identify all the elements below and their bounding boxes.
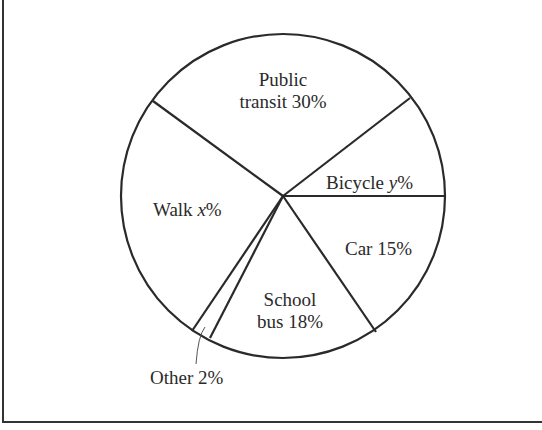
label-school-bus-line2: bus 18% — [257, 311, 323, 332]
label-school-bus-line1: School — [264, 289, 317, 310]
label-other: Other 2% — [150, 367, 224, 388]
slice-bicycle: Bicycle y% — [326, 172, 413, 193]
slice-other: Other 2% — [150, 367, 224, 388]
label-public-transit-line2: transit 30% — [239, 91, 326, 112]
slice-walk: Walk x% — [153, 199, 222, 220]
slice-school-bus: School bus 18% — [257, 289, 323, 332]
label-walk: Walk x% — [153, 199, 222, 220]
label-car: Car 15% — [345, 238, 412, 259]
label-public-transit-line1: Public — [259, 69, 308, 90]
slice-car: Car 15% — [345, 238, 412, 259]
label-bicycle: Bicycle y% — [326, 172, 413, 193]
